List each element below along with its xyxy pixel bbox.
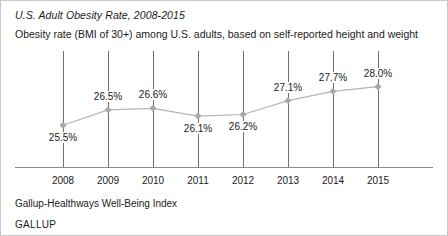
- data-label-2008: 25.5%: [48, 132, 78, 143]
- data-label-2015: 28.0%: [363, 68, 393, 79]
- gridlines-group: [64, 51, 379, 167]
- x-axis-label-2011: 2011: [187, 175, 209, 186]
- data-point-2014: [330, 88, 336, 94]
- chart-subtitle: Obesity rate (BMI of 30+) among U.S. adu…: [15, 28, 418, 40]
- data-point-2011: [195, 113, 201, 119]
- x-axis-label-2009: 2009: [97, 175, 119, 186]
- data-point-2008: [60, 122, 66, 128]
- source-note: Gallup-Healthways Well-Being Index: [15, 198, 177, 209]
- x-axis-label-2013: 2013: [277, 175, 299, 186]
- data-label-2009: 26.5%: [93, 91, 123, 102]
- data-point-2015: [375, 84, 381, 90]
- x-axis-label-2008: 2008: [52, 175, 74, 186]
- data-label-2012: 26.2%: [228, 121, 258, 132]
- data-point-2010: [150, 105, 156, 111]
- data-label-2010: 26.6%: [138, 89, 168, 100]
- data-label-2014: 27.7%: [318, 72, 348, 83]
- data-point-2009: [105, 107, 111, 113]
- chart-container: U.S. Adult Obesity Rate, 2008-2015 Obesi…: [0, 0, 448, 236]
- chart-title: U.S. Adult Obesity Rate, 2008-2015: [15, 9, 185, 21]
- data-point-2012: [240, 111, 246, 117]
- brand-logo: GALLUP: [15, 219, 56, 230]
- x-axis-label-2010: 2010: [142, 175, 164, 186]
- data-label-2011: 26.1%: [183, 123, 213, 134]
- x-axis-label-2014: 2014: [322, 175, 344, 186]
- x-axis-label-2015: 2015: [367, 175, 389, 186]
- x-axis-label-2012: 2012: [232, 175, 254, 186]
- data-label-2013: 27.1%: [273, 82, 303, 93]
- data-point-2013: [285, 97, 291, 103]
